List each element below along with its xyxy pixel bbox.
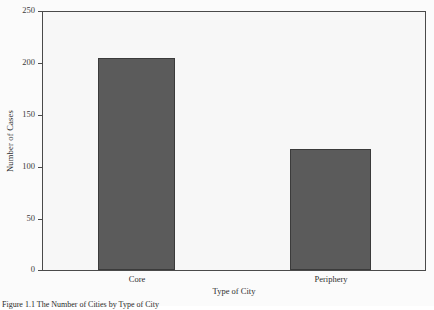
plot-area	[43, 12, 425, 270]
figure-caption: Figure 1.1 The Number of Cities by Type …	[2, 299, 432, 310]
plot-frame	[42, 11, 426, 271]
y-axis-title: Number of Cases	[3, 11, 17, 271]
x-tick-label-periphery: Periphery	[289, 274, 373, 285]
x-tick-label-core: Core	[97, 274, 177, 285]
y-tick-label-100: 100	[22, 161, 35, 172]
x-axis-title: Type of City	[42, 286, 426, 297]
y-tick-label-150: 150	[22, 109, 35, 120]
bar-core[interactable]	[98, 58, 175, 270]
y-tick-label-200: 200	[22, 57, 35, 68]
y-tick-label-250: 250	[22, 5, 35, 16]
y-tick-label-0: 0	[31, 264, 35, 275]
bar-periphery[interactable]	[290, 149, 371, 270]
y-tick-label-50: 50	[27, 213, 36, 224]
